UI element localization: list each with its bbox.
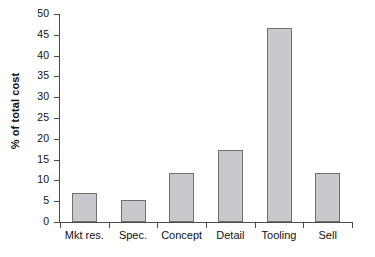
plot-area <box>60 14 352 222</box>
y-axis-tick-label: 5 <box>9 195 49 206</box>
x-axis-category-label: Mkt res. <box>60 230 109 241</box>
bar-chart-figure: % of total cost 05101520253035404550 Mkt… <box>0 0 375 257</box>
y-axis-tick <box>54 222 59 223</box>
y-axis-tick-label: 45 <box>9 29 49 40</box>
y-axis-tick <box>54 56 59 57</box>
x-axis-category-label: Tooling <box>255 230 304 241</box>
bar <box>121 200 146 222</box>
x-axis-category-label: Spec. <box>109 230 158 241</box>
x-axis-category-label: Sell <box>303 230 352 241</box>
x-axis-tick <box>303 223 304 228</box>
y-axis-tick <box>54 76 59 77</box>
y-axis-tick <box>54 97 59 98</box>
y-axis-tick-label: 20 <box>9 133 49 144</box>
y-axis-tick <box>54 201 59 202</box>
x-axis-tick <box>255 223 256 228</box>
x-axis-category-label: Concept <box>157 230 206 241</box>
x-axis-tick <box>109 223 110 228</box>
y-axis-tick <box>54 180 59 181</box>
x-axis-category-label: Detail <box>206 230 255 241</box>
y-axis-tick-label: 35 <box>9 70 49 81</box>
y-axis-tick <box>54 160 59 161</box>
y-axis-tick-label: 30 <box>9 91 49 102</box>
x-axis-tick <box>206 223 207 228</box>
y-axis-tick <box>54 118 59 119</box>
bar <box>169 173 194 222</box>
y-axis-tick-label: 40 <box>9 50 49 61</box>
y-axis-tick <box>54 14 59 15</box>
bar <box>267 28 292 222</box>
x-axis-tick <box>352 223 353 228</box>
y-axis-tick-label: 10 <box>9 174 49 185</box>
x-axis-tick <box>60 223 61 228</box>
bar <box>72 193 97 222</box>
y-axis-tick-label: 15 <box>9 154 49 165</box>
x-axis-tick <box>157 223 158 228</box>
bar <box>315 173 340 222</box>
y-axis-tick <box>54 35 59 36</box>
y-axis-tick-label: 25 <box>9 112 49 123</box>
y-axis-tick <box>54 139 59 140</box>
bar <box>218 150 243 222</box>
y-axis-tick-label: 50 <box>9 8 49 19</box>
y-axis-tick-label: 0 <box>9 216 49 227</box>
